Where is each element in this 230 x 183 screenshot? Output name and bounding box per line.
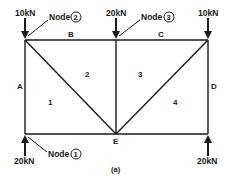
load-label-bottom-right: 20kN (197, 156, 217, 166)
node-3-callout: Node 3 (119, 12, 174, 36)
load-label-top-right: 10kN (198, 8, 218, 18)
load-label-top-left: 10kN (15, 8, 35, 18)
panel-label-3: 3 (138, 70, 143, 79)
load-arrow-top-left (21, 18, 29, 39)
panel-label-4: 4 (173, 98, 178, 107)
space-label-C: C (158, 30, 164, 39)
node-1-number: 1 (74, 150, 78, 159)
space-label-D: D (211, 82, 217, 91)
truss-frame (25, 40, 208, 134)
node-1-callout: Node 1 (28, 137, 81, 159)
load-arrow-top-right (204, 18, 212, 39)
panel-label-2: 2 (85, 70, 90, 79)
left-diagonal (25, 40, 116, 134)
node-1-label: Node (48, 149, 70, 159)
node-3-number: 3 (167, 13, 171, 22)
load-label-top-middle: 20kN (106, 8, 126, 18)
truss-diagram: 10kN 20kN 10kN 20kN 20kN Node 2 Node 3 N… (0, 0, 230, 183)
right-diagonal (116, 40, 208, 134)
space-label-A: A (17, 82, 23, 91)
figure-caption: (a) (111, 165, 121, 174)
node-2-label: Node (49, 12, 71, 22)
space-label-B: B (68, 30, 74, 39)
panel-label-1: 1 (48, 98, 53, 107)
node-2-number: 2 (74, 13, 78, 22)
load-label-bottom-left: 20kN (14, 156, 34, 166)
space-label-E: E (113, 137, 119, 146)
reaction-arrow-bottom-right (204, 135, 212, 156)
reaction-arrow-bottom-left (21, 135, 29, 156)
load-arrow-top-middle (112, 18, 120, 39)
node-3-label: Node (141, 12, 163, 22)
